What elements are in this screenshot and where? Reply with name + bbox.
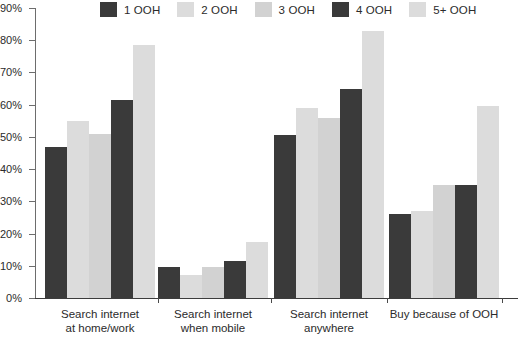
bar[interactable] — [89, 134, 111, 298]
plot-area: 0%10%20%30%40%50%60%70%80%90% — [45, 8, 518, 298]
y-axis-tick — [29, 266, 35, 267]
bar[interactable] — [158, 267, 180, 298]
bar[interactable] — [296, 108, 318, 298]
bar-group — [274, 8, 384, 298]
y-axis-label: 40% — [0, 163, 22, 175]
bar-group — [389, 8, 499, 298]
bar[interactable] — [180, 275, 202, 298]
bar-group — [158, 8, 268, 298]
category-label-line2: when mobile — [158, 321, 268, 335]
bar[interactable] — [433, 185, 455, 298]
x-axis-category-label: Search internetat home/work — [45, 307, 155, 335]
y-axis-tick — [29, 137, 35, 138]
category-label-line1: Search internet — [290, 308, 368, 320]
bar[interactable] — [318, 118, 340, 298]
bar-groups — [45, 8, 518, 298]
category-label-line1: Search internet — [174, 308, 252, 320]
bar-group — [45, 8, 155, 298]
bar[interactable] — [477, 106, 499, 298]
y-axis-label: 90% — [0, 2, 22, 14]
y-axis-label: 80% — [0, 34, 22, 46]
category-label-line2: at home/work — [45, 321, 155, 335]
category-label-line1: Search internet — [61, 308, 139, 320]
x-axis-category-label: Buy because of OOH — [389, 307, 499, 321]
y-axis-tick — [29, 234, 35, 235]
bar[interactable] — [340, 89, 362, 298]
bar[interactable] — [455, 185, 477, 298]
bar[interactable] — [224, 261, 246, 298]
y-axis-label: 60% — [0, 99, 22, 111]
y-axis-tick — [29, 298, 35, 299]
y-axis-label: 30% — [0, 195, 22, 207]
bar[interactable] — [389, 214, 411, 298]
y-axis-label: 20% — [0, 228, 22, 240]
category-label-line2: anywhere — [274, 321, 384, 335]
x-axis-category-label: Search internetwhen mobile — [158, 307, 268, 335]
bar[interactable] — [246, 242, 268, 298]
y-axis-tick — [29, 40, 35, 41]
bar[interactable] — [45, 147, 67, 298]
bar[interactable] — [133, 45, 155, 298]
y-axis-tick — [29, 201, 35, 202]
x-axis-line — [35, 298, 518, 299]
category-label-line1: Buy because of OOH — [390, 308, 499, 320]
y-axis-label: 50% — [0, 131, 22, 143]
y-axis-line — [35, 8, 36, 298]
bar[interactable] — [111, 100, 133, 298]
bar[interactable] — [67, 121, 89, 298]
bar[interactable] — [274, 135, 296, 298]
x-axis-category-labels: Search internetat home/workSearch intern… — [0, 301, 523, 342]
y-axis-label: 70% — [0, 66, 22, 78]
y-axis-tick — [29, 8, 35, 9]
y-axis-label: 10% — [0, 260, 22, 272]
bar[interactable] — [411, 211, 433, 298]
bar[interactable] — [362, 31, 384, 298]
y-axis-tick — [29, 169, 35, 170]
y-axis-tick — [29, 105, 35, 106]
bar[interactable] — [202, 267, 224, 298]
bar-chart: 1 OOH2 OOH3 OOH4 OOH5+ OOH 0%10%20%30%40… — [0, 0, 523, 342]
y-axis-tick — [29, 72, 35, 73]
x-axis-category-label: Search internetanywhere — [274, 307, 384, 335]
